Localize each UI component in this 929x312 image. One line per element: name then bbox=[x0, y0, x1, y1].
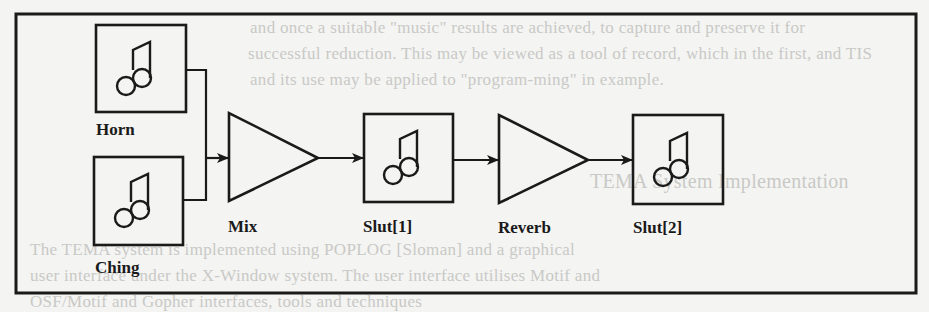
horn-node[interactable] bbox=[96, 25, 186, 112]
slut1-node[interactable] bbox=[364, 114, 453, 202]
music-note-icon bbox=[115, 174, 149, 227]
mix-amplifier-icon[interactable] bbox=[229, 113, 318, 201]
horn-label: Horn bbox=[96, 121, 135, 138]
slut2-node[interactable] bbox=[633, 115, 723, 204]
ching-label: Ching bbox=[95, 259, 139, 276]
slut2-label: Slut[2] bbox=[633, 219, 682, 236]
music-note-icon bbox=[117, 42, 151, 95]
mix-label: Mix bbox=[228, 218, 257, 235]
reverb-amplifier-icon[interactable] bbox=[499, 115, 588, 203]
merge-connector bbox=[183, 70, 228, 200]
music-note-icon bbox=[654, 133, 688, 186]
slut1-label: Slut[1] bbox=[363, 218, 412, 235]
music-note-icon bbox=[384, 131, 418, 184]
reverb-label: Reverb bbox=[498, 219, 551, 236]
ching-node[interactable] bbox=[94, 157, 183, 245]
